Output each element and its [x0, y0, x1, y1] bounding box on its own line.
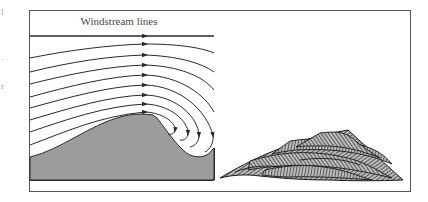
edge-glyph: r — [1, 81, 4, 91]
windstream-lines-label: Windstream lines — [81, 15, 158, 27]
edge-glyph: · — [1, 54, 4, 64]
edge-glyph: l — [1, 7, 4, 17]
dune-diagram: l · r Windstream lines — [0, 0, 428, 202]
